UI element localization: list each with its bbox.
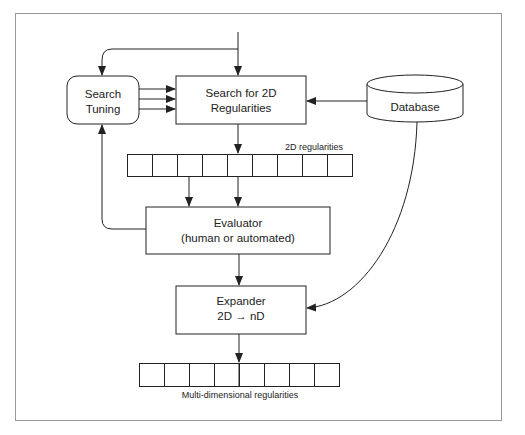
expander-label-2: 2D → nD — [217, 310, 264, 322]
search-2d-label-1: Search for 2D — [206, 87, 277, 99]
search-2d-node[interactable] — [176, 76, 306, 124]
evaluator-node[interactable] — [146, 207, 330, 254]
regularities-nd-label: Multi-dimensional regularities — [182, 390, 299, 400]
database-label: Database — [390, 101, 439, 113]
regularities-2d-label: 2D regularities — [285, 142, 344, 152]
expander-label-1: Expander — [216, 295, 265, 307]
search-tuning-label-2: Tuning — [86, 103, 121, 115]
search-tuning-label-1: Search — [85, 88, 121, 100]
evaluator-label-1: Evaluator — [214, 217, 263, 229]
search-tuning-node[interactable] — [67, 76, 139, 124]
search-2d-label-2: Regularities — [211, 102, 272, 114]
input-to-tuning-edge — [102, 49, 238, 75]
database-node[interactable] — [367, 75, 463, 122]
regularities-2d-array — [128, 155, 353, 177]
evaluator-label-2: (human or automated) — [181, 232, 295, 244]
workflow-diagram: Search Tuning Search for 2D Regularities… — [0, 0, 525, 435]
